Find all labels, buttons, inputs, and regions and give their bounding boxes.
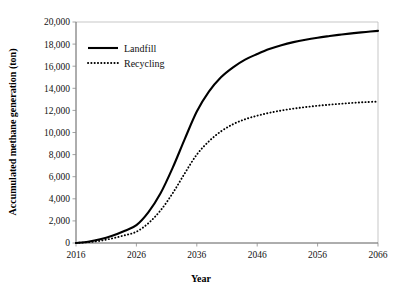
x-tick-label: 2066 [369, 250, 388, 260]
y-tick-label: 2,000 [49, 216, 71, 226]
x-axis-title: Year [191, 273, 212, 284]
y-tick-label: 8,000 [49, 150, 71, 160]
y-tick-label: 14,000 [44, 84, 70, 94]
y-tick-label: 12,000 [44, 106, 70, 116]
y-tick-label: 20,000 [44, 17, 70, 27]
x-tick-label: 2016 [67, 250, 86, 260]
legend-label-recycling: Recycling [124, 58, 165, 69]
y-tick-label: 10,000 [44, 128, 70, 138]
chart-figure: 02,0004,0006,0008,00010,00012,00014,0001… [0, 0, 403, 289]
x-tick-label: 2036 [187, 250, 206, 260]
y-tick-label: 18,000 [44, 40, 70, 50]
y-tick-label: 0 [65, 238, 70, 248]
y-tick-label: 4,000 [49, 194, 71, 204]
x-tick-label: 2026 [127, 250, 146, 260]
y-axis-title: Accumulated methane generation (ton) [7, 49, 19, 216]
legend-label-landfill: Landfill [124, 43, 156, 54]
x-tick-label: 2056 [308, 250, 327, 260]
y-tick-label: 6,000 [49, 172, 71, 182]
x-tick-label: 2046 [248, 250, 267, 260]
accumulated-methane-generation-line-chart: 02,0004,0006,0008,00010,00012,00014,0001… [0, 0, 403, 289]
y-tick-label: 16,000 [44, 62, 70, 72]
